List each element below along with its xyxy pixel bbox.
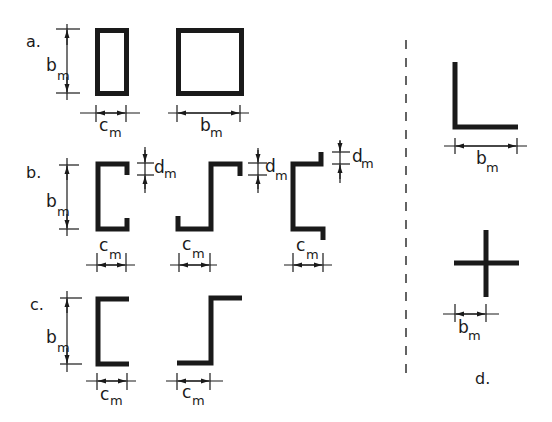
- angle-section: [455, 62, 518, 127]
- dim-dm-b3: d m: [332, 140, 374, 183]
- dim-dm-subscript: m: [164, 166, 177, 181]
- section-a-label: a.: [26, 32, 41, 51]
- lipped-channel-section: [98, 164, 127, 229]
- dim-bm-subscript: m: [210, 125, 223, 140]
- dim-bm-subscript: m: [468, 328, 481, 343]
- section-d: b m b m d.: [443, 62, 527, 388]
- dim-bm-symbol: b: [46, 55, 57, 75]
- dim-cm-subscript: m: [192, 246, 205, 261]
- dim-cm-symbol: c: [182, 382, 191, 402]
- dim-cm-subscript: m: [109, 125, 122, 140]
- dim-bm-symbol: b: [46, 327, 57, 347]
- dim-bm-vertical-a: b m: [46, 24, 80, 100]
- dim-bm-subscript: m: [57, 340, 70, 355]
- section-b: b. b m d m c m: [26, 140, 374, 272]
- dim-cm-b2: c m: [170, 234, 217, 272]
- dim-bm-d1: b m: [444, 138, 527, 175]
- dim-bm-subscript: m: [486, 160, 499, 175]
- plain-channel-section: [98, 299, 129, 364]
- dim-cm-symbol: c: [99, 235, 108, 255]
- section-b-label: b.: [26, 163, 41, 182]
- dim-bm-vertical-c: b m: [46, 291, 82, 372]
- dim-dm-subscript: m: [361, 156, 374, 171]
- dim-cm-subscript: m: [109, 247, 122, 262]
- section-c-label: c.: [30, 295, 44, 314]
- cruciform-section: [454, 230, 519, 297]
- dim-cm-a: c m: [80, 105, 140, 140]
- dim-bm-subscript: m: [57, 204, 70, 219]
- dim-cm-b1: c m: [86, 235, 135, 272]
- dim-cm-subscript: m: [306, 247, 319, 262]
- dim-bm-d2: b m: [443, 304, 499, 343]
- lipped-z-section: [178, 164, 240, 229]
- dim-bm-a-square: b m: [168, 105, 249, 140]
- dim-cm-symbol: c: [182, 234, 191, 254]
- dim-cm-c1: c m: [86, 373, 136, 408]
- structural-sections-diagram: a. b m c m b: [0, 0, 552, 422]
- dim-bm-vertical-b: b m: [46, 158, 79, 236]
- section-a: a. b m c m b: [26, 24, 249, 140]
- dim-cm-symbol: c: [99, 115, 108, 135]
- dim-cm-symbol: c: [100, 384, 109, 404]
- dim-bm-subscript: m: [57, 68, 70, 83]
- dim-dm-b2: d m: [248, 148, 288, 193]
- dim-cm-b3: c m: [284, 235, 332, 272]
- dim-cm-subscript: m: [110, 393, 123, 408]
- plain-z-section: [177, 298, 242, 363]
- dim-cm-symbol: c: [296, 235, 305, 255]
- rectangular-hollow-section: [98, 31, 127, 94]
- section-c: c. b m c m c m: [30, 291, 242, 408]
- section-d-label: d.: [475, 369, 490, 388]
- dim-cm-subscript: m: [192, 393, 205, 408]
- dim-cm-c2: c m: [166, 373, 223, 408]
- dim-dm-b1: d m: [137, 147, 177, 193]
- square-hollow-section: [179, 31, 242, 94]
- dim-dm-subscript: m: [275, 168, 288, 183]
- inward-lipped-section: [293, 152, 323, 240]
- dim-bm-symbol: b: [46, 191, 57, 211]
